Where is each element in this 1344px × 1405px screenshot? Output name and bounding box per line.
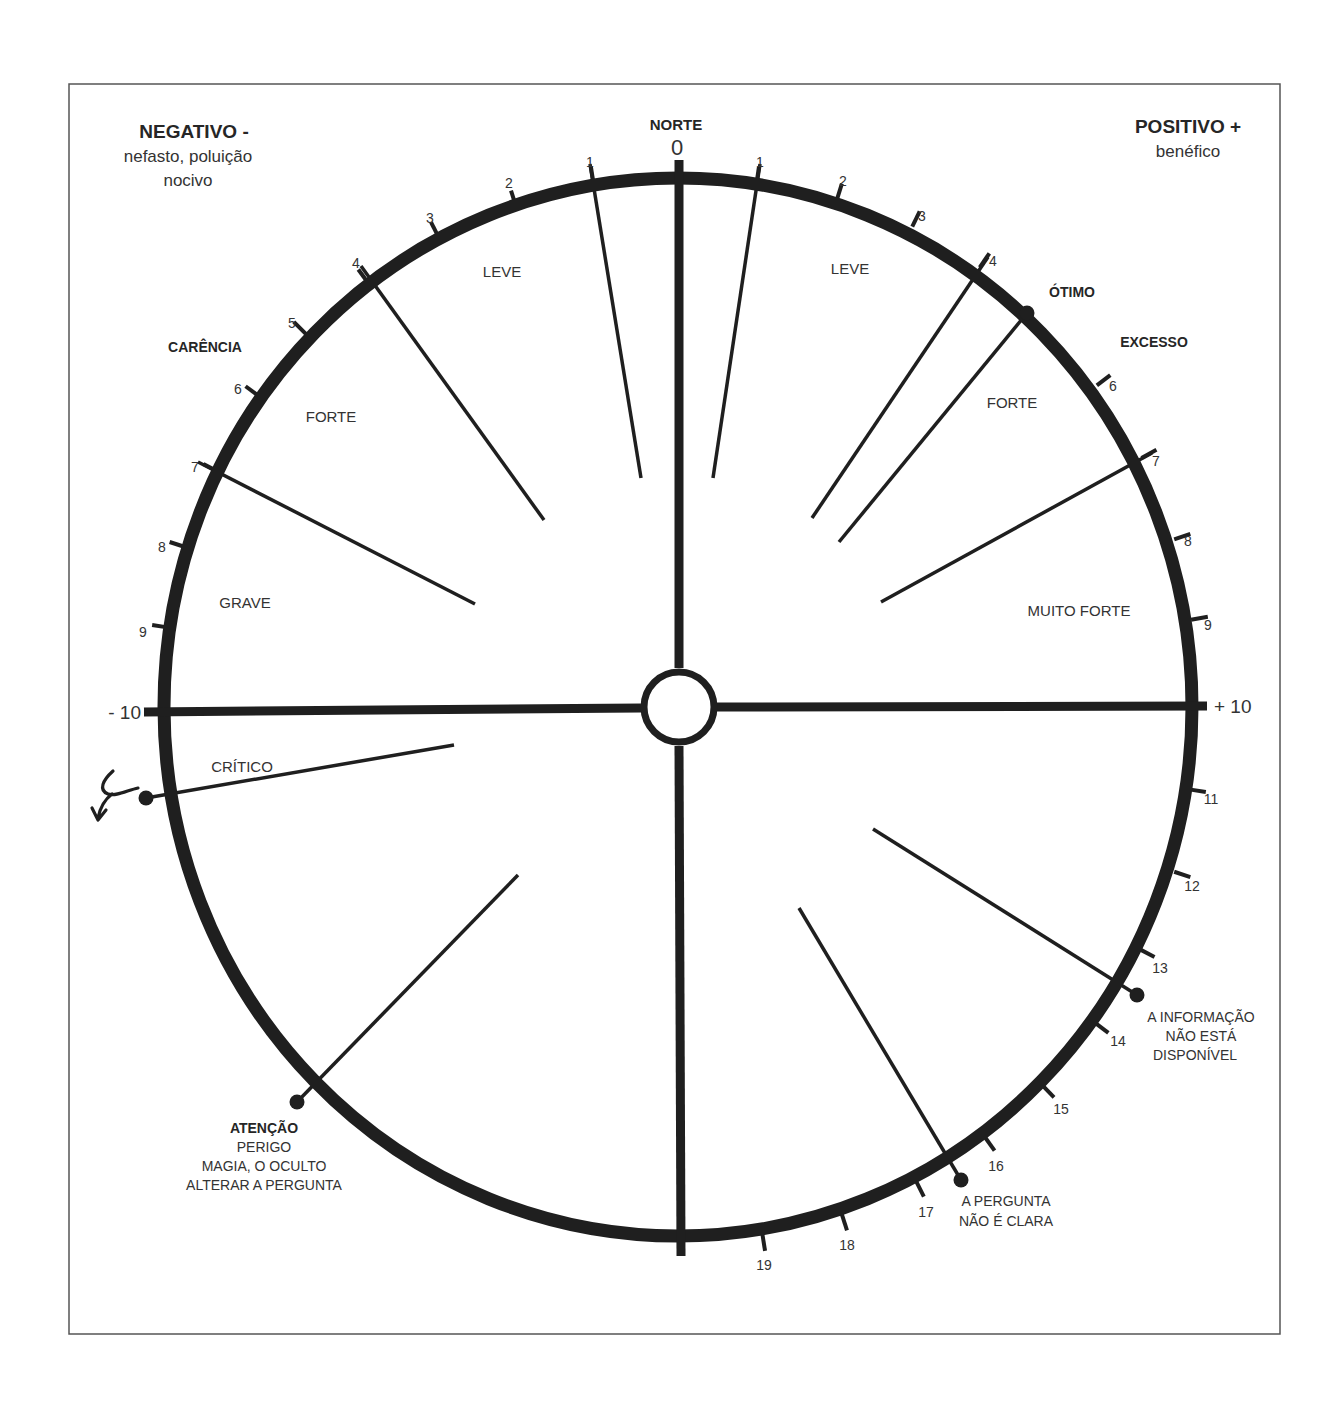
spoke-info (873, 829, 1137, 995)
spoke-critico (146, 745, 454, 798)
tick-mark (916, 1181, 924, 1196)
tick-label-right-4: 4 (989, 253, 997, 269)
zone-label-right-forte: FORTE (987, 394, 1038, 411)
positive-desc: benéfico (1156, 142, 1220, 161)
negative-desc-2: nocivo (163, 171, 212, 190)
atencao-title: ATENÇÃO (230, 1119, 298, 1136)
info-line-1: A INFORMAÇÃO (1147, 1009, 1254, 1025)
marker-info-icon (1130, 988, 1145, 1003)
axis-east (716, 706, 1207, 707)
tick-label-right-11: 11 (1204, 791, 1219, 807)
spoke-left-4 (361, 266, 544, 520)
tick-label-left-3: 3 (426, 210, 434, 226)
carencia-label: CARÊNCIA (168, 338, 242, 355)
spoke-left-7 (198, 462, 475, 604)
tick-label-right-7: 7 (1152, 453, 1160, 469)
zone-label-left-grave: GRAVE (219, 594, 270, 611)
pergunta-line-1: A PERGUNTA (961, 1193, 1051, 1209)
tick-label-right-12: 12 (1184, 878, 1200, 894)
tick-label-left-4: 4 (352, 255, 360, 271)
tick-label-right-2: 2 (839, 173, 847, 189)
tick-label-left-2: 2 (505, 175, 513, 191)
tick-label-right-1: 1 (756, 154, 764, 170)
zero-label: 0 (671, 135, 683, 160)
zone-label-right-leve: LEVE (831, 260, 869, 277)
tick-mark (985, 1137, 995, 1151)
axis-west (144, 708, 641, 712)
tick-label-right-3: 3 (918, 208, 926, 224)
tick-label-right-6: 6 (1109, 378, 1117, 394)
tick-mark (1174, 872, 1190, 877)
zone-label-left-leve: LEVE (483, 263, 521, 280)
tick-mark (842, 1214, 847, 1230)
excesso-label: EXCESSO (1120, 334, 1188, 350)
tick-label-left-5: 5 (288, 315, 296, 331)
tick-label-right-17: 17 (918, 1204, 934, 1220)
info-line-3: DISPONÍVEL (1153, 1047, 1237, 1063)
tick-label-right-13: 13 (1152, 960, 1168, 976)
tick-label-right-8: 8 (1184, 533, 1192, 549)
zone-label-right-muito-forte: MUITO FORTE (1028, 602, 1131, 619)
tick-label-left-8: 8 (158, 539, 166, 555)
positive-title: POSITIVO + (1135, 116, 1241, 137)
tick-label-right-14: 14 (1110, 1033, 1126, 1049)
tick-label-right-18: 18 (839, 1237, 855, 1253)
tick-label-left-7: 7 (191, 459, 199, 475)
tick-label-left-6: 6 (234, 381, 242, 397)
negative-title: NEGATIVO - (139, 121, 248, 142)
pergunta-line-2: NÃO É CLARA (959, 1213, 1054, 1229)
tick-label-right-19: 19 (756, 1257, 772, 1273)
tick-label-left-9: 9 (139, 624, 147, 640)
otimo-label: ÓTIMO (1049, 283, 1095, 300)
spokes-group (146, 164, 1152, 1180)
hand-drawn-arrow-icon (92, 771, 138, 820)
tick-label-left-1: 1 (586, 154, 594, 170)
tick-label-right-15: 15 (1053, 1101, 1069, 1117)
atencao-line-1: PERIGO (237, 1139, 292, 1155)
marker-otimo-icon (1020, 306, 1035, 321)
atencao-line-3: ALTERAR A PERGUNTA (186, 1177, 343, 1193)
atencao-line-2: MAGIA, O OCULTO (202, 1158, 327, 1174)
info-line-2: NÃO ESTÁ (1166, 1028, 1237, 1044)
north-label: NORTE (650, 116, 703, 133)
spoke-right-4 (812, 257, 988, 518)
minus-ten-label: - 10 (108, 702, 141, 723)
negative-desc-1: nefasto, poluição (124, 147, 253, 166)
tick-label-right-9: 9 (1204, 617, 1212, 633)
marker-atencao-icon (290, 1095, 305, 1110)
center-hub (644, 672, 714, 742)
spoke-pergunta (799, 908, 961, 1180)
marker-pergunta-icon (954, 1173, 969, 1188)
spoke-otimo (839, 313, 1027, 542)
plus-ten-label: + 10 (1214, 696, 1252, 717)
axis-south (679, 746, 681, 1256)
tick-label-right-16: 16 (988, 1158, 1004, 1174)
spoke-atencao (297, 875, 518, 1102)
spoke-right-1 (713, 164, 760, 478)
tick-mark (762, 1234, 765, 1251)
zone-label-left-crítico: CRÍTICO (211, 758, 273, 775)
pendulum-dial-diagram: 12345678912346789111213141516171819 NEGA… (0, 0, 1344, 1405)
marker-critico-icon (139, 791, 154, 806)
spoke-left-1 (590, 164, 641, 478)
spoke-right-7 (881, 453, 1152, 602)
zone-label-left-forte: FORTE (306, 408, 357, 425)
